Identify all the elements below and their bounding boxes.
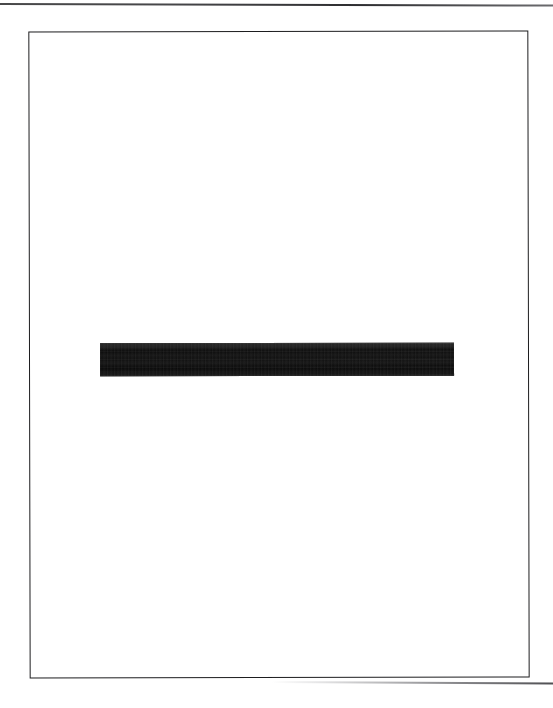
scanned-page-canvas <box>0 0 553 708</box>
top-scan-edge-line <box>0 3 553 7</box>
bottom-scan-edge-line <box>272 681 553 684</box>
redaction-bar <box>100 343 454 377</box>
page-border-frame <box>28 30 529 678</box>
